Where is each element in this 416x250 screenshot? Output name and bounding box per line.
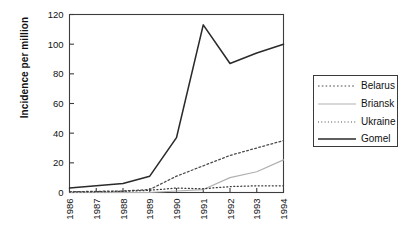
series-line-gomel bbox=[70, 25, 284, 188]
axis-layer: 0204060801001201986198719881989199019911… bbox=[48, 9, 289, 220]
legend-item-gomel: Gomel bbox=[314, 130, 399, 148]
chart-legend: Belarus Briansk Ukraine Gomel bbox=[313, 75, 398, 147]
y-tick-label: 100 bbox=[48, 39, 64, 50]
legend-swatch-ukraine bbox=[318, 117, 356, 127]
plot-frame bbox=[70, 15, 284, 193]
x-tick-label: 1986 bbox=[64, 199, 75, 220]
x-tick-label: 1991 bbox=[198, 199, 209, 220]
legend-swatch-gomel bbox=[318, 134, 356, 144]
legend-swatch-briansk bbox=[318, 99, 356, 109]
chart-figure: Incidence per million 020406080100120198… bbox=[0, 0, 416, 250]
x-tick-label: 1989 bbox=[144, 199, 155, 220]
x-tick-label: 1988 bbox=[118, 199, 129, 220]
x-tick-label: 1990 bbox=[171, 199, 182, 220]
x-tick-label: 1994 bbox=[278, 199, 289, 220]
y-tick-label: 40 bbox=[53, 128, 64, 139]
series-layer bbox=[70, 25, 284, 193]
legend-label-ukraine: Ukraine bbox=[361, 117, 395, 127]
legend-label-gomel: Gomel bbox=[361, 134, 390, 144]
y-tick-label: 80 bbox=[53, 68, 64, 79]
x-tick-label: 1987 bbox=[91, 199, 102, 220]
legend-swatch-belarus bbox=[318, 81, 356, 91]
legend-label-briansk: Briansk bbox=[361, 99, 394, 109]
y-tick-label: 0 bbox=[58, 187, 63, 198]
legend-item-belarus: Belarus bbox=[314, 77, 399, 95]
legend-item-briansk: Briansk bbox=[314, 95, 399, 113]
y-tick-label: 120 bbox=[48, 9, 64, 20]
legend-item-ukraine: Ukraine bbox=[314, 113, 399, 131]
series-line-belarus bbox=[70, 141, 284, 192]
x-tick-label: 1993 bbox=[251, 199, 262, 220]
legend-label-belarus: Belarus bbox=[361, 81, 395, 91]
y-tick-label: 60 bbox=[53, 98, 64, 109]
y-tick-label: 20 bbox=[53, 157, 64, 168]
x-tick-label: 1992 bbox=[225, 199, 236, 220]
